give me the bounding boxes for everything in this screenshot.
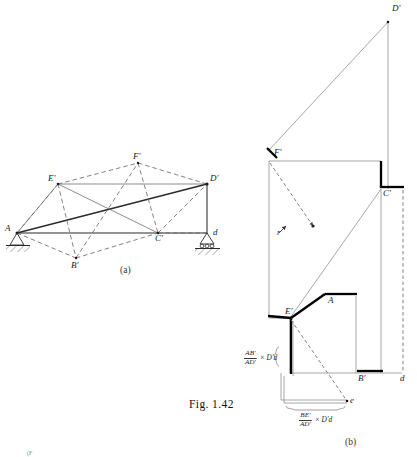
panel-b-group xyxy=(267,21,404,410)
bottom-text-fragment: (F xyxy=(27,450,32,456)
fraction-denominator: AD' xyxy=(244,359,257,367)
dash-Cprime-Dprime xyxy=(158,184,207,233)
panel-a-label-d: d xyxy=(213,228,218,237)
figure-caption: Fig. 1.42 xyxy=(189,398,234,410)
node-dot-e xyxy=(346,400,349,403)
line-Fprime-Dprime xyxy=(269,22,388,150)
panel-b-tag: (b) xyxy=(345,437,356,447)
expr-ab-over-ad: AB' AD' × D'd xyxy=(244,350,277,366)
brace-horizontal xyxy=(286,406,345,410)
panel-b-label-Cprime: C' xyxy=(383,189,391,198)
dash-A-Eprime xyxy=(17,184,58,233)
panel-b-label-A: A xyxy=(328,296,334,305)
line-Eprime-Cprime xyxy=(58,184,158,233)
pin-support-A xyxy=(6,233,30,252)
panel-a-group xyxy=(6,162,220,259)
panel-b-label-Bprime: B' xyxy=(358,374,365,383)
panel-a-label-Eprime: E' xyxy=(48,174,55,183)
panel-b-label-e: e xyxy=(350,396,354,405)
panel-a-label-Bprime: B' xyxy=(71,261,78,270)
panel-b-node-dots xyxy=(268,21,390,403)
panel-a-label-Fprime: F' xyxy=(133,152,140,161)
panel-a-solid-members xyxy=(17,184,207,233)
node-dot-Eprime-b xyxy=(290,317,293,320)
line-Cprime-Eprime xyxy=(290,189,381,318)
panel-a-label-A: A xyxy=(5,224,11,233)
panel-b-heavy-lines xyxy=(267,148,404,374)
r-vector-marker xyxy=(279,224,315,233)
node-dot-Bprime xyxy=(75,257,77,259)
member-A-Dprime xyxy=(17,184,207,233)
fraction-be-ad: BE' AD' xyxy=(299,412,312,428)
node-dot-Fprime xyxy=(137,162,139,164)
fraction-denominator: AD' xyxy=(299,421,312,429)
figure-container: A B' C' D' E' F' d (a) D' F' C' E' A B' … xyxy=(0,0,417,457)
panel-a-label-Dprime: D' xyxy=(210,174,218,183)
expr-ab-over-ad-rest: × D'd xyxy=(259,355,277,362)
fraction-ab-ad: AB' AD' xyxy=(244,350,257,366)
node-dot-Eprime xyxy=(57,183,60,186)
panel-b-label-Fprime: F' xyxy=(274,148,281,157)
panel-b-label-Dprime: D' xyxy=(392,4,400,13)
panel-b-label-d: d xyxy=(400,374,405,383)
dash-Bprime-Fprime xyxy=(76,163,138,258)
expr-be-over-ad-rest: × D'd xyxy=(314,417,332,424)
dash-Fprime-Dprime xyxy=(138,163,207,184)
dash-Eprime-e xyxy=(291,320,347,401)
dash-Bprime-Cprime xyxy=(76,233,158,258)
node-dot-Dprime-b xyxy=(387,21,390,24)
panel-a-label-Cprime: C' xyxy=(155,234,163,243)
panel-b-thin-lines xyxy=(269,22,402,403)
dash-Fprime-r-arrow xyxy=(270,163,313,226)
heavy-Eprime-A xyxy=(291,294,325,318)
node-dot-Fprime-b xyxy=(268,149,271,152)
panel-b-label-r: r xyxy=(277,228,281,237)
panel-a-tag: (a) xyxy=(120,265,131,275)
figure-drawing xyxy=(0,0,417,457)
node-dot-Dprime xyxy=(205,182,208,185)
expr-be-over-ad: BE' AD' × D'd xyxy=(299,412,332,428)
panel-b-label-Eprime: E' xyxy=(285,307,292,316)
node-dot-Cprime-b xyxy=(380,186,383,189)
